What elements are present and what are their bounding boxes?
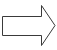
- right-arrow-icon: [0, 0, 57, 50]
- right-arrow-button[interactable]: right: [0, 0, 57, 50]
